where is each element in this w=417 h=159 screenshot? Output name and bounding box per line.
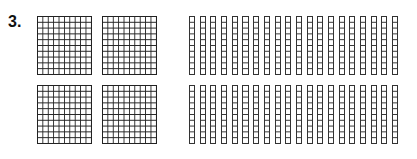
tens-rod bbox=[264, 85, 270, 144]
tens-rod bbox=[189, 16, 195, 75]
tens-rod bbox=[200, 85, 206, 144]
tens-rod bbox=[339, 16, 345, 75]
tens-rod bbox=[307, 16, 313, 75]
hundred-block bbox=[102, 16, 157, 75]
tens-rod bbox=[242, 16, 248, 75]
tens-rod bbox=[371, 85, 377, 144]
tens-rod bbox=[296, 85, 302, 144]
tens-rod bbox=[253, 85, 259, 144]
hundred-block bbox=[102, 85, 157, 144]
tens-rod bbox=[371, 16, 377, 75]
tens-rod-row bbox=[189, 16, 398, 75]
tens-rod bbox=[317, 16, 323, 75]
tens-rod bbox=[210, 16, 216, 75]
tens-rod bbox=[360, 85, 366, 144]
tens-rod bbox=[285, 85, 291, 144]
tens-rod bbox=[264, 16, 270, 75]
hundred-block bbox=[37, 16, 92, 75]
tens-rod bbox=[349, 16, 355, 75]
tens-rod bbox=[317, 85, 323, 144]
tens-rod bbox=[221, 16, 227, 75]
tens-rod bbox=[200, 16, 206, 75]
tens-rod bbox=[339, 85, 345, 144]
tens-rod bbox=[392, 16, 398, 75]
tens-rod bbox=[307, 85, 313, 144]
tens-rod bbox=[328, 85, 334, 144]
tens-rod bbox=[275, 85, 281, 144]
tens-rod bbox=[328, 16, 334, 75]
tens-rod bbox=[285, 16, 291, 75]
tens-rod bbox=[381, 16, 387, 75]
tens-rod bbox=[381, 85, 387, 144]
tens-rod bbox=[349, 85, 355, 144]
tens-rod-row bbox=[189, 85, 398, 144]
tens-rod bbox=[392, 85, 398, 144]
tens-rod bbox=[210, 85, 216, 144]
tens-rod bbox=[275, 16, 281, 75]
tens-rod bbox=[253, 16, 259, 75]
tens-rod bbox=[360, 16, 366, 75]
tens-rod bbox=[221, 85, 227, 144]
tens-rod bbox=[189, 85, 195, 144]
tens-rod bbox=[296, 16, 302, 75]
hundred-block bbox=[37, 85, 92, 144]
problem-number: 3. bbox=[8, 13, 21, 31]
tens-rod bbox=[232, 85, 238, 144]
tens-rod bbox=[232, 16, 238, 75]
tens-rod bbox=[242, 85, 248, 144]
